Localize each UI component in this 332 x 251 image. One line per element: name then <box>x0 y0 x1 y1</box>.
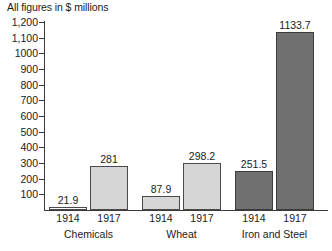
y-axis-tick-label: 800 <box>20 79 38 91</box>
y-axis-tick-label: 1000 <box>15 47 38 59</box>
y-axis-tick-mark <box>39 147 44 148</box>
bar-value-label: 87.9 <box>136 183 186 195</box>
y-axis-tick-label: 200 <box>20 173 38 185</box>
y-axis-tick-mark <box>39 179 44 180</box>
y-axis-tick-mark <box>39 22 44 23</box>
y-axis-tick-mark <box>39 163 44 164</box>
y-axis-tick-mark <box>39 116 44 117</box>
y-axis-tick-mark <box>39 132 44 133</box>
x-axis-group-label: Chemicals <box>35 228 142 241</box>
bar-value-label: 251.5 <box>229 158 279 170</box>
x-axis-group-label: Wheat <box>128 228 235 241</box>
bar <box>183 163 221 210</box>
bar-value-label: 1133.7 <box>270 19 320 31</box>
y-axis-tick-mark <box>39 100 44 101</box>
bar-value-label: 298.2 <box>177 150 227 162</box>
y-axis-tick-mark <box>39 194 44 195</box>
x-axis-tick-labels: 191419171914191719141917 <box>44 212 328 226</box>
x-axis-tick-label: 1917 <box>84 212 134 225</box>
y-axis-tick-mark <box>39 53 44 54</box>
y-axis-tick-mark <box>39 85 44 86</box>
bar-chart: All figures in $ millions 1,2001,1001000… <box>0 0 332 251</box>
x-axis-tick-label: 1917 <box>270 212 320 225</box>
y-axis-tick-label: 700 <box>20 94 38 106</box>
y-axis-tick-label: 900 <box>20 63 38 75</box>
bar <box>235 171 273 210</box>
bar-value-label: 21.9 <box>43 194 93 206</box>
y-axis-tick-label: 1,100 <box>12 32 38 44</box>
x-axis-group-labels: ChemicalsWheatIron and Steel <box>44 228 328 242</box>
y-axis-tick-label: 300 <box>20 157 38 169</box>
x-axis-tick-label: 1917 <box>177 212 227 225</box>
y-axis-tick-label: 500 <box>20 126 38 138</box>
bar <box>90 166 128 210</box>
x-axis-line <box>44 210 328 211</box>
y-axis-tick-label: 1,200 <box>12 16 38 28</box>
bar <box>49 207 87 210</box>
bars-layer: 21.928187.9298.2251.51133.7 <box>44 22 328 210</box>
bar <box>276 32 314 210</box>
x-axis-group-label: Iron and Steel <box>221 228 328 241</box>
y-axis-tick-label: 100 <box>20 188 38 200</box>
y-axis-tick-label: 400 <box>20 141 38 153</box>
bar <box>142 196 180 210</box>
y-axis-tick-label: 600 <box>20 110 38 122</box>
bar-value-label: 281 <box>84 153 134 165</box>
y-axis-tick-mark <box>39 38 44 39</box>
y-axis-labels: 1,2001,100100090080070060050040030020010… <box>0 0 38 251</box>
y-axis-tick-mark <box>39 69 44 70</box>
